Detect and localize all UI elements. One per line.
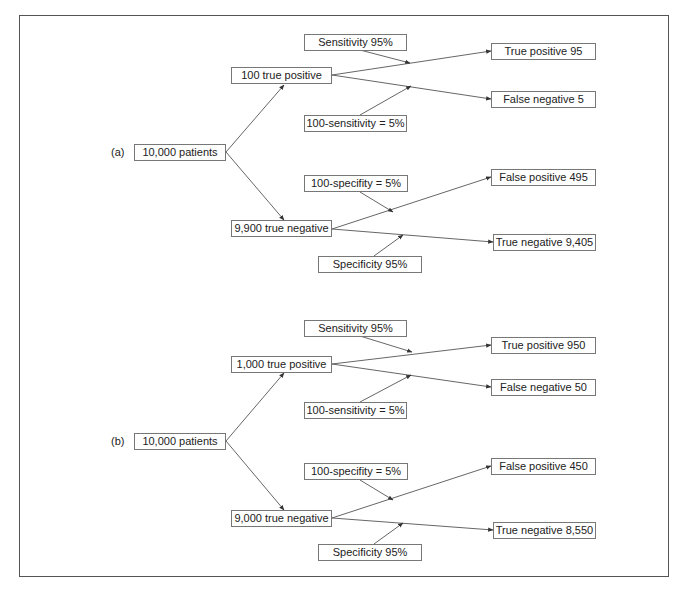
- true-negative-result: True negative 8,550: [493, 522, 596, 539]
- true-negative-population-node: 9,900 true negative: [231, 220, 332, 237]
- sensitivity-label: Sensitivity 95%: [304, 34, 407, 51]
- true-negative-population-node: 9,000 true negative: [231, 510, 332, 527]
- false-negative-result: False negative 50: [491, 379, 596, 396]
- false-positive-result: False positive 450: [491, 458, 596, 475]
- true-positive-result: True positive 95: [491, 43, 596, 60]
- specificity-label: Specificity 95%: [318, 256, 422, 273]
- root-node: 10,000 patients: [134, 144, 226, 161]
- false-negative-result: False negative 5: [491, 91, 596, 108]
- diagram-connectors: [0, 0, 683, 594]
- one-minus-sensitivity-label: 100-sensitivity = 5%: [304, 115, 407, 132]
- false-positive-result: False positive 495: [491, 169, 596, 186]
- panel-label: (b): [111, 434, 124, 449]
- true-positive-population-node: 1,000 true positive: [231, 356, 332, 373]
- panel-label: (a): [111, 145, 124, 160]
- specificity-label: Specificity 95%: [318, 544, 422, 561]
- true-positive-population-node: 100 true positive: [231, 67, 332, 84]
- one-minus-specificity-label: 100-specifity = 5%: [304, 463, 408, 480]
- sensitivity-label: Sensitivity 95%: [304, 320, 407, 337]
- true-negative-result: True negative 9,405: [493, 234, 596, 251]
- true-positive-result: True positive 950: [491, 337, 596, 354]
- one-minus-sensitivity-label: 100-sensitivity = 5%: [304, 402, 407, 419]
- root-node: 10,000 patients: [134, 433, 226, 450]
- one-minus-specificity-label: 100-specifity = 5%: [304, 175, 408, 192]
